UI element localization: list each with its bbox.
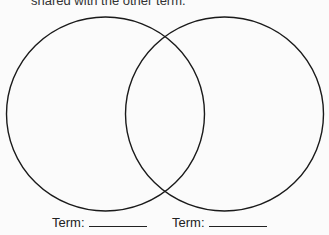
right-circle bbox=[126, 17, 324, 211]
term-label-text: Term: bbox=[52, 215, 85, 230]
venn-diagram bbox=[0, 0, 329, 235]
term-blank-left[interactable] bbox=[89, 216, 147, 227]
term-label-left: Term: bbox=[52, 215, 147, 230]
term-label-text: Term: bbox=[172, 215, 205, 230]
term-blank-right[interactable] bbox=[209, 216, 267, 227]
term-label-right: Term: bbox=[172, 215, 267, 230]
left-circle bbox=[7, 17, 205, 211]
